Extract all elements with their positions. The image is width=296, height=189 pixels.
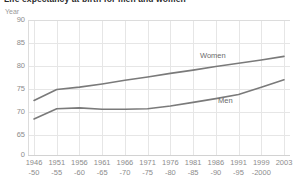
y-tick-label: 90 (3, 16, 25, 24)
series-label-women: Women (200, 51, 226, 60)
series-layer (28, 20, 290, 155)
series-line-men (34, 80, 284, 119)
chart-title: Life expectancy at birth for men and wom… (4, 0, 186, 4)
x-tick-label: 2003 (269, 158, 296, 178)
x-axis-tick-labels: 1946-501951-551956-601961-651966-701971-… (28, 158, 296, 186)
series-label-men: Men (218, 96, 233, 105)
plot-area: Women Men (28, 20, 290, 155)
x-axis-line (28, 155, 290, 156)
y-tick-label: 70 (3, 108, 25, 116)
y-tick-label: 85 (3, 39, 25, 47)
y-axis-label: Year (5, 8, 19, 15)
y-tick-label: 65 (3, 131, 25, 139)
y-axis-tick-labels: 9085807570650 (0, 20, 25, 160)
y-tick-label: 75 (3, 85, 25, 93)
series-line-women (34, 56, 284, 100)
y-tick-label: 80 (3, 62, 25, 70)
line-chart: Life expectancy at birth for men and wom… (0, 0, 296, 189)
